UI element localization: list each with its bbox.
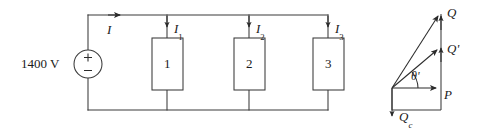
phasor-base-box bbox=[392, 88, 441, 110]
load-label-3: 3 bbox=[325, 57, 332, 70]
phasor-label-P: P bbox=[444, 88, 452, 101]
load-label-2: 2 bbox=[246, 57, 253, 70]
phasor-label-Qc-base: Q bbox=[399, 109, 408, 124]
current-label-I3: I3 bbox=[335, 22, 344, 35]
phasor-angle-label: θ' bbox=[411, 70, 419, 82]
phasor-label-Q: Q bbox=[447, 6, 456, 19]
source-voltage-label: 1400 V bbox=[21, 57, 59, 70]
phasor-label-Qc: Qc bbox=[399, 110, 412, 123]
phasor-label-Qc-subscript: c bbox=[408, 120, 412, 130]
current-label-I1-subscript: 1 bbox=[178, 32, 182, 42]
current-label-I1: I1 bbox=[174, 22, 183, 35]
phasor-label-Q-prime: Q' bbox=[447, 42, 459, 55]
circuit-and-phasor-figure: 1400 V I I1 I2 I3 1 2 3 Q Q' P Qc θ' bbox=[0, 0, 487, 133]
phasor-diagram-vectors bbox=[392, 14, 441, 116]
load-label-1: 1 bbox=[164, 57, 171, 70]
circuit-wires bbox=[88, 15, 328, 110]
current-label-I3-subscript: 3 bbox=[339, 32, 343, 42]
current-arrows bbox=[108, 15, 328, 27]
current-label-I: I bbox=[107, 23, 111, 36]
voltage-source-icon bbox=[74, 50, 102, 78]
current-label-I2: I2 bbox=[256, 22, 265, 35]
figure-vector-graphics bbox=[0, 0, 487, 133]
current-label-I2-subscript: 2 bbox=[260, 32, 264, 42]
